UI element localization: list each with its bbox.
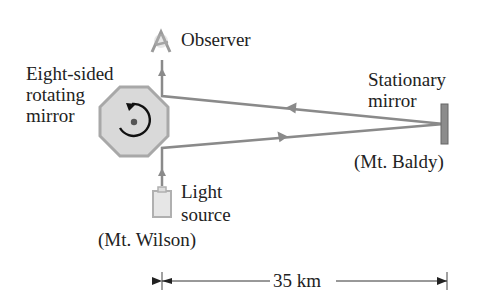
- beam-source-to-mirror: [158, 158, 166, 186]
- diagram-canvas: Observer Eight-sided rotating mirror Sta…: [0, 0, 490, 306]
- observer-label: Observer: [181, 30, 251, 50]
- light-source-label-line1: Light: [181, 182, 222, 202]
- stationary-mirror-label-line1: Stationary: [368, 70, 446, 90]
- rotating-mirror-label-line3: mirror: [26, 106, 75, 126]
- distance-label: 35 km: [273, 271, 321, 291]
- source-location-label: (Mt. Wilson): [98, 230, 196, 250]
- rotating-mirror-label-line2: rotating: [26, 85, 85, 105]
- rotating-mirror-label-line1: Eight-sided: [26, 64, 114, 84]
- stationary-mirror-icon: [441, 104, 448, 144]
- stationary-mirror-label-line2: mirror: [368, 91, 417, 111]
- light-source-icon: [153, 187, 171, 217]
- observer-eye-icon: [152, 32, 170, 52]
- light-source-label-line2: source: [181, 205, 231, 225]
- rotating-mirror-octagon: [100, 87, 168, 156]
- stationary-location-label: (Mt. Baldy): [354, 152, 444, 172]
